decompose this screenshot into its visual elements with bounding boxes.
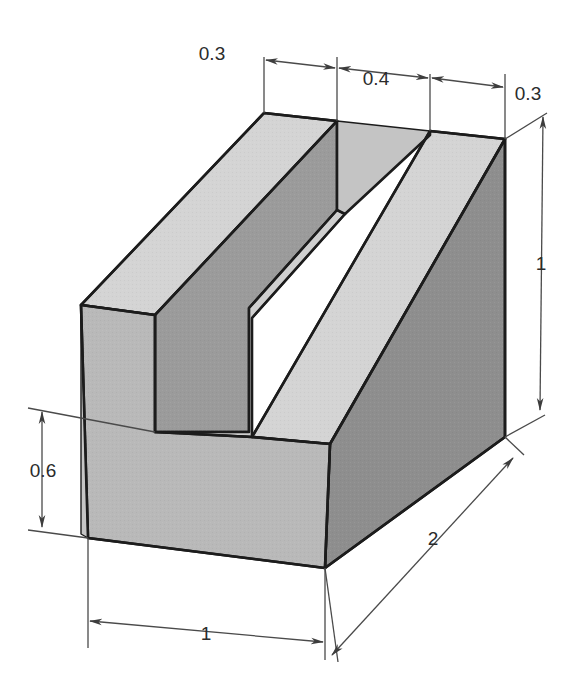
dim-label-total-depth: 2 <box>428 528 439 549</box>
grooved-block-figure: 0.3 0.4 0.3 1 0.6 1 2 <box>0 0 574 676</box>
dim-label-right-rail-width: 0.3 <box>515 83 541 104</box>
dim-label-total-width: 1 <box>201 623 212 644</box>
dim-label-groove-floor-height: 0.6 <box>30 460 56 481</box>
dim-label-left-rail-width: 0.3 <box>199 43 225 64</box>
dim-label-total-height: 1 <box>536 253 547 274</box>
dim-label-groove-width: 0.4 <box>363 68 390 89</box>
